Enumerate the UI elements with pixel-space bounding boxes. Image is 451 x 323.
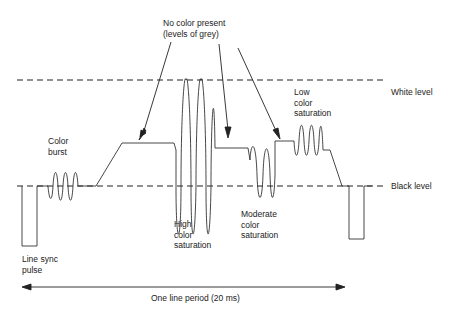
label-color-burst: Color burst <box>48 136 68 157</box>
label-black-level: Black level <box>391 181 432 192</box>
label-low-saturation: Low color saturation <box>294 87 331 119</box>
video-signal-diagram <box>0 0 451 323</box>
label-period: One line period (20 ms) <box>151 293 240 304</box>
label-no-color: No color present (levels of grey) <box>163 18 225 39</box>
label-high-saturation: High color saturation <box>174 219 211 251</box>
label-moderate-saturation: Moderate color saturation <box>241 209 278 241</box>
label-white-level: White level <box>391 87 433 98</box>
label-line-sync: Line sync pulse <box>22 254 58 275</box>
annotation-arrows <box>139 42 280 140</box>
period-arrow <box>22 284 345 290</box>
